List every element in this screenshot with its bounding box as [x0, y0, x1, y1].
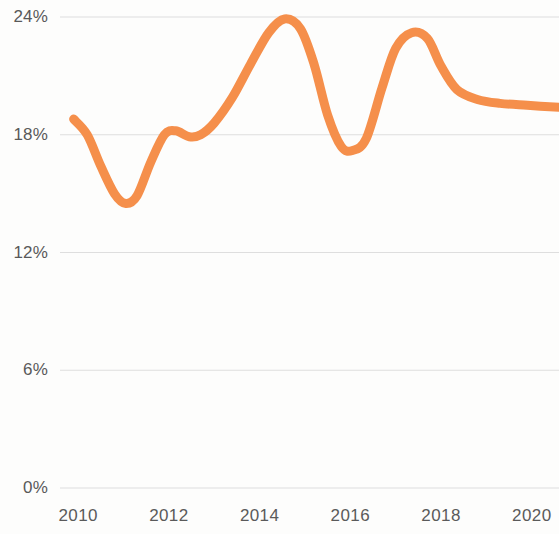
- x-axis-tick-label: 2014: [240, 506, 279, 526]
- y-axis-tick-label: 0%: [0, 478, 48, 498]
- series-line-layer: [0, 0, 559, 534]
- y-axis-tick-label: 18%: [0, 125, 48, 145]
- line-chart: 24%18%12%6%0% 201020122014201620182020: [0, 0, 559, 534]
- y-axis-tick-label: 24%: [0, 7, 48, 27]
- series-line-path: [74, 19, 559, 204]
- x-axis-tick-label: 2020: [512, 506, 551, 526]
- x-axis-tick-label: 2012: [149, 506, 188, 526]
- y-axis-tick-label: 6%: [0, 360, 48, 380]
- x-axis-tick-label: 2018: [421, 506, 460, 526]
- x-axis-tick-label: 2016: [331, 506, 370, 526]
- y-axis-tick-label: 12%: [0, 243, 48, 263]
- x-axis-tick-label: 2010: [58, 506, 97, 526]
